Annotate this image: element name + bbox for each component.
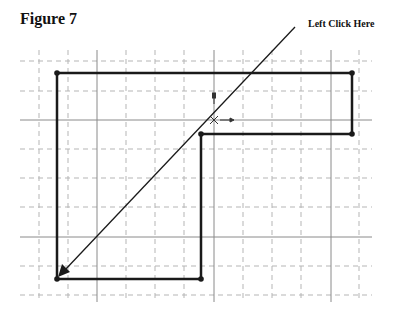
vertex-points xyxy=(54,70,355,282)
l-shape-profile[interactable] xyxy=(57,73,352,279)
callout-arrow-icon xyxy=(58,27,295,277)
grid-dashed xyxy=(20,50,372,302)
sketch-canvas[interactable] xyxy=(0,0,395,313)
grid-solid xyxy=(20,50,372,302)
